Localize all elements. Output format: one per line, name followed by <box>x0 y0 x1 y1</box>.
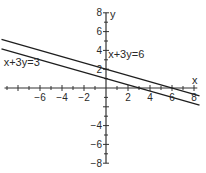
x-tick-label: 2 <box>125 92 131 103</box>
x-tick-label: −4 <box>56 92 68 103</box>
x-tick-label: 4 <box>147 92 153 103</box>
x-tick-label: 8 <box>191 92 197 103</box>
x-tick-label: −6 <box>34 92 46 103</box>
y-tick-label: 2 <box>96 64 102 75</box>
x-tick-label: 6 <box>169 92 175 103</box>
y-axis-label: y <box>110 8 116 20</box>
y-tick-label: 4 <box>96 45 102 56</box>
equation-label: x+3y=3 <box>4 56 40 68</box>
x-axis-label: x <box>192 74 198 86</box>
y-tick-label: 8 <box>96 7 102 18</box>
line-graph: −6−4−224688642−4−6−8yxx+3y=6x+3y=3 <box>0 0 206 173</box>
equation-label: x+3y=6 <box>108 48 144 60</box>
x-tick-label: −2 <box>78 92 90 103</box>
y-tick-label: 6 <box>96 26 102 37</box>
y-tick-label: −4 <box>91 120 103 131</box>
y-tick-label: −8 <box>91 158 103 169</box>
y-tick-label: −6 <box>91 139 103 150</box>
